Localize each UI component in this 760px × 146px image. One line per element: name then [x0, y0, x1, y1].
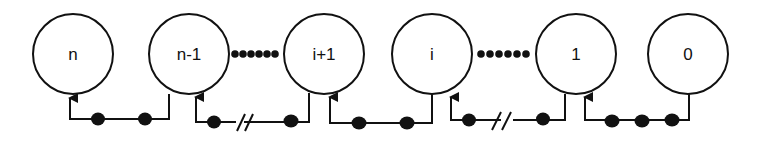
node-label: i+1 [312, 45, 335, 64]
token-icon [462, 114, 476, 127]
node-label: i [430, 45, 434, 64]
break-mark-icon [237, 114, 245, 131]
node-i-plus-1: i+1 [284, 14, 364, 94]
link-n-minus-1-to-n [70, 94, 169, 119]
node-n-minus-1: n-1 [149, 14, 229, 94]
link-i-to-i-plus-1 [330, 94, 432, 123]
node-n: n [33, 14, 113, 94]
token-icon [284, 115, 299, 128]
token-icon [665, 114, 680, 127]
token-icon [352, 117, 367, 130]
node-label: n-1 [177, 45, 202, 64]
node-0: 0 [648, 14, 728, 94]
token-icon [91, 113, 105, 126]
token-icon [605, 115, 620, 128]
ring-diagram: n n-1 i+1 i 1 0 [0, 0, 760, 146]
token-icon [138, 113, 152, 126]
node-1: 1 [536, 14, 616, 94]
ellipsis-dots-icon [231, 50, 279, 58]
token-icon [400, 117, 415, 130]
node-label: n [68, 45, 77, 64]
token-icon [207, 116, 221, 129]
node-i: i [392, 14, 472, 94]
node-label: 0 [683, 45, 692, 64]
break-mark-icon [502, 112, 511, 130]
token-icon [536, 113, 550, 126]
ellipsis-dots-icon [477, 50, 530, 58]
node-label: 1 [571, 45, 580, 64]
token-icon [635, 115, 650, 128]
